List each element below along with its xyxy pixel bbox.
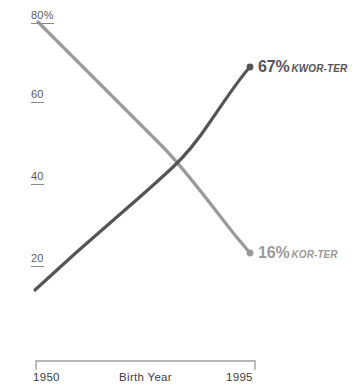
x-axis-bracket	[36, 361, 255, 369]
x-axis-title: Birth Year	[36, 371, 255, 384]
y-tick-label-20: 20	[31, 252, 44, 267]
series-end-label-kor-ter: 16%KOR-TER	[258, 244, 338, 263]
endpoint-dot-kor-ter	[247, 250, 254, 257]
chart-container: 80% 60 40 20 67%KWOR-TER 16%KOR-TER 1950…	[0, 0, 357, 390]
series-end-name-kwor-ter: KWOR-TER	[291, 63, 347, 74]
series-line-kor-ter	[38, 22, 250, 253]
y-tick-label-40: 40	[31, 170, 44, 185]
series-end-value-kwor-ter: 67%	[258, 58, 289, 75]
series-end-value-kor-ter: 16%	[258, 244, 289, 261]
series-end-label-kwor-ter: 67%KWOR-TER	[258, 58, 347, 77]
y-tick-label-60: 60	[31, 88, 44, 103]
endpoint-dot-kwor-ter	[247, 64, 254, 71]
series-line-kwor-ter	[35, 67, 250, 290]
y-tick-label-80: 80%	[31, 9, 54, 24]
series-end-name-kor-ter: KOR-TER	[291, 249, 337, 260]
